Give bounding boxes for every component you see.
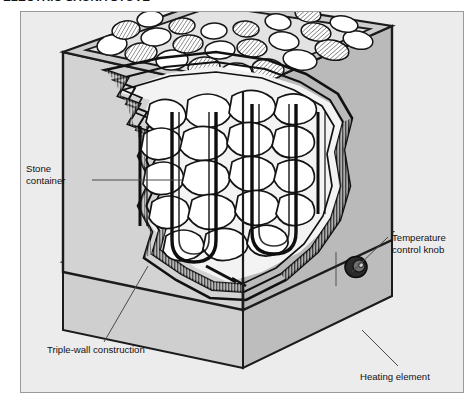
stove-body	[63, 0, 392, 368]
callout-stone-container: Stone container	[26, 163, 65, 186]
leader-heating-element	[362, 330, 398, 366]
callout-temperature-control-knob: Temperature control knob	[392, 232, 446, 255]
figure-electric-sauna-stove: ELECTRIC SAUNA STOVE	[0, 0, 472, 407]
callout-heating-element: Heating element	[360, 371, 430, 383]
callout-triple-wall-construction: Triple-wall construction	[47, 344, 145, 356]
temperature-control-knob[interactable]	[345, 257, 367, 278]
